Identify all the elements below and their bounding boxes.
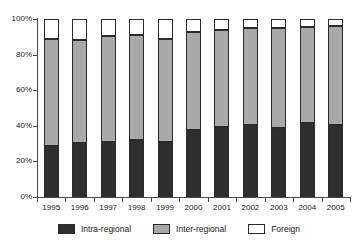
bar-segment-inter-regional xyxy=(101,36,116,142)
bar-segment-intra-regional xyxy=(271,128,286,197)
stacked-bar-chart: 0%20%40%60%80%100% Intra-regionalInter-r… xyxy=(0,0,358,248)
x-axis-tick-label: 1995 xyxy=(37,203,65,212)
bar-2000 xyxy=(186,19,201,197)
y-axis-tick xyxy=(33,161,38,162)
bar-segment-inter-regional xyxy=(328,26,343,125)
y-axis-tick xyxy=(33,90,38,91)
bar-segment-intra-regional xyxy=(328,125,343,197)
legend-item: Inter-regional xyxy=(153,224,226,234)
legend-swatch-icon xyxy=(153,224,170,234)
x-axis-tick-label: 2005 xyxy=(322,203,350,212)
x-axis-tick-label: 2002 xyxy=(236,203,264,212)
legend-label: Intra-regional xyxy=(81,225,131,234)
bar-1998 xyxy=(129,19,144,197)
bar-segment-foreign xyxy=(129,19,144,35)
x-axis-tick-label: 1999 xyxy=(151,203,179,212)
x-axis-tick xyxy=(350,197,351,202)
x-axis-tick xyxy=(94,197,95,202)
y-axis-labels: 0%20%40%60%80%100% xyxy=(0,0,32,248)
bar-segment-foreign xyxy=(271,19,286,28)
bar-2001 xyxy=(214,19,229,197)
bar-1999 xyxy=(158,19,173,197)
bar-1995 xyxy=(44,19,59,197)
y-axis-tick-label: 40% xyxy=(2,122,32,130)
bar-segment-inter-regional xyxy=(129,35,144,140)
bar-2005 xyxy=(328,19,343,197)
legend-swatch-icon xyxy=(248,224,265,234)
x-axis-tick xyxy=(37,197,38,202)
legend-label: Foreign xyxy=(271,225,300,234)
bar-segment-intra-regional xyxy=(186,130,201,197)
bar-segment-foreign xyxy=(72,19,87,40)
bar-segment-foreign xyxy=(158,19,173,39)
bar-segment-intra-regional xyxy=(101,142,116,197)
bar-segment-foreign xyxy=(300,19,315,27)
bar-segment-foreign xyxy=(101,19,116,36)
x-axis-tick xyxy=(265,197,266,202)
legend-item: Foreign xyxy=(248,224,300,234)
y-axis-tick xyxy=(33,126,38,127)
bar-segment-intra-regional xyxy=(243,125,258,197)
x-axis-tick xyxy=(322,197,323,202)
plot-area xyxy=(37,19,350,197)
y-axis-tick xyxy=(33,19,38,20)
y-axis-tick-label: 0% xyxy=(2,193,32,201)
chart-legend: Intra-regionalInter-regionalForeign xyxy=(0,224,358,234)
bar-segment-inter-regional xyxy=(271,28,286,128)
bar-segment-inter-regional xyxy=(243,28,258,125)
x-axis-tick-label: 1997 xyxy=(94,203,122,212)
bar-segment-foreign xyxy=(186,19,201,32)
x-axis-tick-label: 1996 xyxy=(65,203,93,212)
x-axis-tick xyxy=(122,197,123,202)
bar-segment-foreign xyxy=(243,19,258,28)
bar-1996 xyxy=(72,19,87,197)
x-axis-tick-label: 2003 xyxy=(265,203,293,212)
bar-segment-inter-regional xyxy=(44,39,59,146)
legend-label: Inter-regional xyxy=(176,225,226,234)
bar-2003 xyxy=(271,19,286,197)
bar-segment-inter-regional xyxy=(300,27,315,123)
bar-2004 xyxy=(300,19,315,197)
x-axis-tick-label: 2004 xyxy=(293,203,321,212)
bar-segment-foreign xyxy=(44,19,59,39)
bar-segment-intra-regional xyxy=(72,143,87,197)
x-axis-tick xyxy=(236,197,237,202)
x-axis-tick xyxy=(208,197,209,202)
bar-segment-foreign xyxy=(328,19,343,26)
x-axis-line xyxy=(37,197,351,198)
x-axis-tick xyxy=(293,197,294,202)
bar-segment-foreign xyxy=(214,19,229,30)
bar-segment-inter-regional xyxy=(158,39,173,142)
bar-segment-intra-regional xyxy=(129,140,144,197)
bar-segment-intra-regional xyxy=(214,127,229,197)
bar-segment-inter-regional xyxy=(186,32,201,130)
x-axis-tick xyxy=(65,197,66,202)
y-axis-tick-label: 80% xyxy=(2,51,32,59)
x-axis-tick xyxy=(179,197,180,202)
bar-segment-intra-regional xyxy=(44,146,59,197)
y-axis-tick xyxy=(33,55,38,56)
legend-swatch-icon xyxy=(58,224,75,234)
y-axis-tick-label: 60% xyxy=(2,86,32,94)
bar-segment-intra-regional xyxy=(158,142,173,197)
x-axis-tick-label: 1998 xyxy=(122,203,150,212)
x-axis-tick-label: 2001 xyxy=(208,203,236,212)
bar-2002 xyxy=(243,19,258,197)
bar-segment-intra-regional xyxy=(300,123,315,197)
x-axis-tick-label: 2000 xyxy=(179,203,207,212)
bar-segment-inter-regional xyxy=(72,40,87,142)
x-axis-tick xyxy=(151,197,152,202)
y-axis-tick-label: 100% xyxy=(2,15,32,23)
y-axis-tick-label: 20% xyxy=(2,157,32,165)
bar-1997 xyxy=(101,19,116,197)
legend-item: Intra-regional xyxy=(58,224,131,234)
bar-segment-inter-regional xyxy=(214,30,229,127)
